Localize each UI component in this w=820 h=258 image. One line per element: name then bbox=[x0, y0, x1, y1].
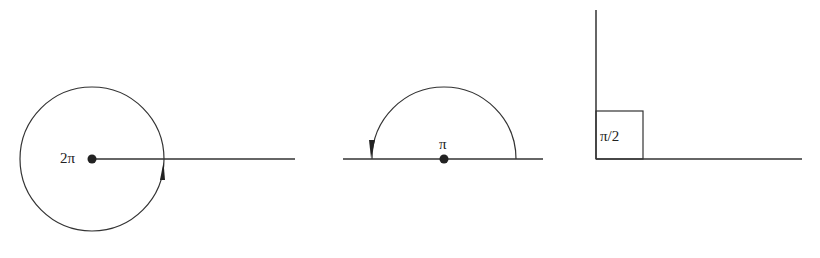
right-angle-figure bbox=[596, 10, 802, 159]
straight-angle-vertex-dot bbox=[440, 155, 449, 164]
straight-angle-figure bbox=[343, 87, 543, 164]
straight-angle-label: π bbox=[439, 137, 447, 152]
angle-diagrams bbox=[0, 0, 820, 258]
full-turn-vertex-dot bbox=[88, 155, 97, 164]
right-angle-label: π/2 bbox=[600, 129, 619, 144]
full-turn-label: 2π bbox=[60, 151, 75, 166]
